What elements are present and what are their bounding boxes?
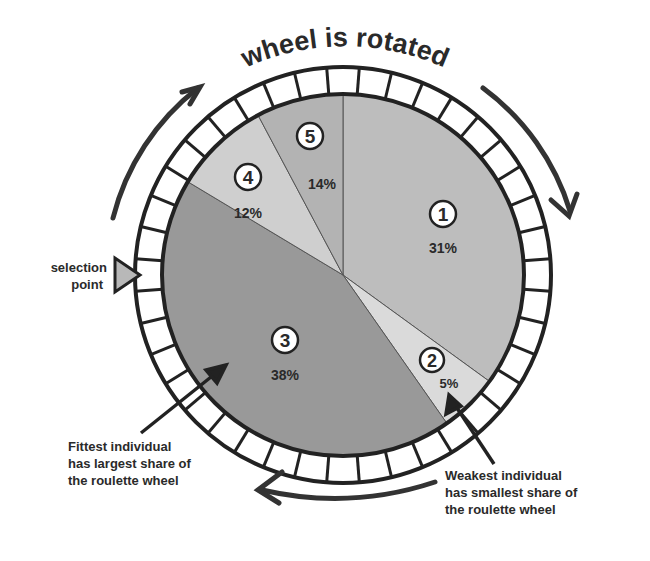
svg-text:has largest share of: has largest share of: [68, 456, 191, 471]
svg-text:4: 4: [243, 167, 254, 188]
svg-text:point: point: [71, 277, 103, 292]
svg-text:2: 2: [427, 351, 437, 371]
selection-point-label: selection: [51, 260, 107, 275]
roulette-wheel-diagram: wheel is rotated 1 31% 2 5% 3 38% 4 12% …: [0, 0, 650, 561]
svg-text:14%: 14%: [308, 176, 337, 192]
svg-text:has smallest share of: has smallest share of: [445, 485, 578, 500]
svg-text:Weakest individual: Weakest individual: [445, 468, 562, 483]
weakest-note: Weakest individual has smallest share of…: [445, 468, 578, 517]
svg-text:5%: 5%: [440, 376, 459, 391]
svg-text:5: 5: [305, 126, 316, 147]
svg-text:the roulette wheel: the roulette wheel: [445, 502, 556, 517]
svg-text:12%: 12%: [234, 205, 263, 221]
fittest-note: Fittest individual has largest share of …: [68, 439, 191, 488]
svg-text:the roulette wheel: the roulette wheel: [68, 473, 179, 488]
svg-text:3: 3: [280, 330, 291, 351]
svg-text:1: 1: [438, 204, 449, 225]
svg-text:38%: 38%: [271, 367, 300, 383]
svg-text:Fittest individual: Fittest individual: [68, 439, 171, 454]
svg-text:31%: 31%: [429, 240, 458, 256]
